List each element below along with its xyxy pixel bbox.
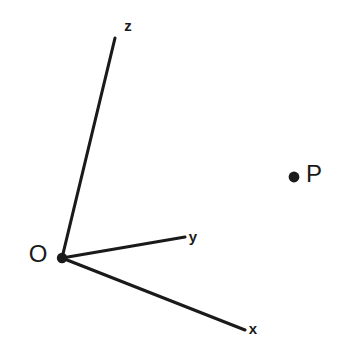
coordinate-axes-diagram: O z y x P xyxy=(0,0,348,358)
axis-line-z xyxy=(62,38,115,258)
axis-label-x: x xyxy=(249,320,258,337)
point-p-label: P xyxy=(306,160,322,187)
diagram-canvas: O z y x P xyxy=(0,0,348,358)
origin-dot xyxy=(57,253,67,263)
point-p-dot xyxy=(289,172,300,183)
origin-label: O xyxy=(29,240,48,267)
axis-label-z: z xyxy=(124,17,132,34)
axis-label-y: y xyxy=(189,228,198,245)
axis-line-x xyxy=(62,258,245,330)
axis-line-y xyxy=(62,237,185,258)
